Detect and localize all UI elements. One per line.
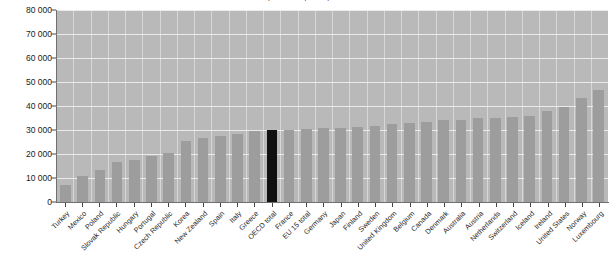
bar: [456, 120, 467, 202]
x-axis-tick-mark: [272, 203, 273, 207]
bar: [301, 129, 312, 202]
y-axis-tick-label: 70 000: [2, 29, 52, 39]
x-axis-tick-mark: [548, 203, 549, 207]
bar: [387, 124, 398, 202]
bar: [77, 176, 88, 202]
bar: [60, 185, 71, 202]
bar: [473, 118, 484, 202]
bar-slot: [452, 10, 469, 202]
x-axis-tick-mark: [392, 203, 393, 207]
x-axis-tick-mark: [513, 203, 514, 207]
bar-slot: [160, 10, 177, 202]
y-axis-tick-mark: [51, 154, 56, 155]
bar: [542, 111, 553, 202]
x-axis-tick-mark: [220, 203, 221, 207]
bar: [490, 118, 501, 202]
bar: [335, 128, 346, 202]
y-axis-tick-label: 80 000: [2, 5, 52, 15]
bar: [318, 128, 329, 202]
bar-slot: [366, 10, 383, 202]
y-axis-tick-label: 60 000: [2, 53, 52, 63]
x-axis-tick-mark: [185, 203, 186, 207]
x-axis-tick-mark: [496, 203, 497, 207]
x-axis-tick-mark: [82, 203, 83, 207]
x-axis-tick-mark: [358, 203, 359, 207]
bar-slot: [487, 10, 504, 202]
x-axis-tick-mark: [341, 203, 342, 207]
bar-slot: [521, 10, 538, 202]
x-axis-tick-mark: [599, 203, 600, 207]
bar-slot: [57, 10, 74, 202]
bar-slot: [177, 10, 194, 202]
y-axis-line: [56, 10, 57, 202]
bar: [593, 90, 604, 202]
x-axis-tick-mark: [306, 203, 307, 207]
x-axis-tick-mark: [323, 203, 324, 207]
bar-series: [56, 10, 608, 202]
x-axis-tick-mark: [461, 203, 462, 207]
x-axis-tick-mark: [375, 203, 376, 207]
y-axis-tick-label: 10 000: [2, 173, 52, 183]
y-axis-tick-label: 40 000: [2, 101, 52, 111]
bar: [198, 138, 209, 202]
bar-slot: [126, 10, 143, 202]
bar: [438, 120, 449, 202]
y-axis-tick-mark: [51, 130, 56, 131]
y-axis-tick-label: 20 000: [2, 149, 52, 159]
bar: [232, 134, 243, 202]
bar: [181, 141, 192, 202]
bar-slot: [280, 10, 297, 202]
x-axis-tick-mark: [65, 203, 66, 207]
bar: [267, 130, 278, 202]
x-axis-tick-mark: [134, 203, 135, 207]
chart-title: Health expenditure per capita, US$ PPP: [0, 0, 613, 1]
plot-area: [56, 10, 608, 202]
x-axis-tick-mark: [479, 203, 480, 207]
x-axis-ticks: TurkeyMexicoPolandSlovak RepublicHungary…: [56, 203, 608, 258]
bar: [249, 131, 260, 202]
y-axis-tick-mark: [51, 178, 56, 179]
bar: [95, 170, 106, 202]
bar-slot: [418, 10, 435, 202]
y-axis-tick-label: 0: [2, 197, 52, 207]
bar: [421, 122, 432, 202]
bar-slot: [246, 10, 263, 202]
bar-slot: [504, 10, 521, 202]
bar-slot: [229, 10, 246, 202]
bar: [215, 136, 226, 202]
bar: [112, 162, 123, 202]
bar-slot: [212, 10, 229, 202]
x-axis-tick-mark: [168, 203, 169, 207]
bar: [507, 117, 518, 202]
y-axis-tick-label: 50 000: [2, 77, 52, 87]
x-axis-tick-mark: [254, 203, 255, 207]
bar: [370, 126, 381, 202]
bar-slot: [195, 10, 212, 202]
bar: [284, 130, 295, 202]
chart-root: Health expenditure per capita, US$ PPP 8…: [0, 0, 613, 258]
x-axis-tick: New Zealand: [194, 203, 211, 258]
x-axis-tick-mark: [203, 203, 204, 207]
x-axis-tick-mark: [582, 203, 583, 207]
y-axis-tick-mark: [51, 34, 56, 35]
bar-slot: [538, 10, 555, 202]
bar-slot: [263, 10, 280, 202]
x-axis-tick: Spain: [211, 203, 228, 258]
x-axis-tick-mark: [151, 203, 152, 207]
bar: [576, 98, 587, 202]
bar-slot: [384, 10, 401, 202]
bar: [129, 160, 140, 202]
bar-slot: [332, 10, 349, 202]
x-axis-tick-mark: [530, 203, 531, 207]
x-axis-tick: Czech Republic: [160, 203, 177, 258]
x-axis-tick: Germany: [315, 203, 332, 258]
bar: [559, 107, 570, 202]
y-axis-tick-mark: [51, 106, 56, 107]
bar-slot: [74, 10, 91, 202]
bar-slot: [315, 10, 332, 202]
x-axis-tick-mark: [99, 203, 100, 207]
x-axis-tick: Iceland: [522, 203, 539, 258]
x-axis-tick-mark: [444, 203, 445, 207]
bar-slot: [401, 10, 418, 202]
bar-slot: [555, 10, 572, 202]
